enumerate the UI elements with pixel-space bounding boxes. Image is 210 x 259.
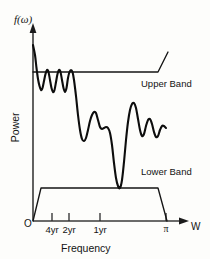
x-tick-label-1yr: 1yr	[93, 224, 106, 235]
y-axis-symbol-text: f(ω)	[14, 13, 32, 25]
x-axis-title: Frequency	[61, 243, 111, 254]
origin-label: O	[24, 219, 32, 229]
y-axis-symbol-label: f(ω)	[14, 14, 32, 25]
spectral-density-figure: f(ω) Power Upper Band Lower Band O W Fre…	[0, 0, 210, 259]
x-tick-label-2yr: 2yr	[62, 224, 75, 235]
upper-band-label: Upper Band	[141, 79, 192, 89]
upper-band-line	[33, 52, 168, 72]
x-axis-ticks	[52, 213, 166, 221]
lower-band-label: Lower Band	[141, 167, 192, 177]
y-axis-title: Power	[10, 103, 21, 151]
x-axis-symbol-label: W	[191, 222, 200, 232]
x-tick-label-4yr: 4yr	[45, 224, 58, 235]
x-tick-label-: π	[163, 223, 168, 234]
